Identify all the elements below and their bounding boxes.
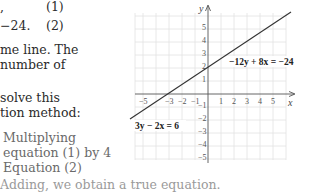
- label-equation-2: −12y + 8x = −24: [229, 57, 294, 67]
- svg-text:−2: −2: [178, 97, 187, 106]
- svg-text:5: 5: [202, 23, 206, 32]
- svg-text:1: 1: [202, 75, 206, 84]
- svg-text:4: 4: [258, 97, 262, 106]
- grid: [135, 13, 286, 160]
- svg-text:5: 5: [271, 97, 275, 106]
- x-tick-labels: −5 −3 −2 −1 1 2 3 4 5: [139, 97, 275, 106]
- svg-text:3: 3: [202, 49, 206, 58]
- coordinate-graph: x y −5 −3 −2 −1 1 2 3 4 5 5 4 3 2 1 −1 −…: [0, 0, 310, 193]
- svg-text:−3: −3: [165, 97, 174, 106]
- svg-text:−3: −3: [198, 127, 207, 136]
- svg-text:2: 2: [232, 97, 236, 106]
- svg-text:3: 3: [245, 97, 249, 106]
- svg-text:−4: −4: [198, 140, 207, 149]
- svg-text:1: 1: [219, 97, 223, 106]
- svg-text:4: 4: [202, 36, 206, 45]
- label-equation-1: 3y − 2x = 6: [135, 121, 179, 131]
- svg-text:−5: −5: [139, 97, 148, 106]
- svg-text:−2: −2: [198, 114, 207, 123]
- svg-text:−1: −1: [198, 101, 207, 110]
- svg-text:−5: −5: [198, 153, 207, 162]
- x-axis-label: x: [287, 97, 293, 108]
- y-tick-labels: 5 4 3 2 1 −1 −2 −3 −4 −5: [198, 23, 207, 162]
- y-axis-label: y: [198, 3, 204, 14]
